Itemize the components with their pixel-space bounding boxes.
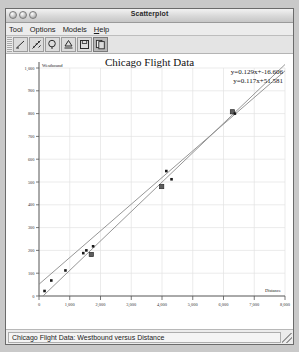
- y-axis-tick-label: 1,000: [25, 66, 36, 72]
- x-axis-tick-label: 6,000: [219, 302, 230, 308]
- y-axis-tick-label: 400: [28, 202, 35, 207]
- data-point: [43, 290, 46, 293]
- data-point-selected: [89, 252, 93, 256]
- tool-bar: [6, 36, 293, 54]
- y-axis-tick-label: 300: [28, 225, 35, 230]
- pencil-line-icon: [15, 39, 26, 50]
- scatter-points-icon: [31, 39, 42, 50]
- x-axis-tick-label: 0: [38, 302, 41, 307]
- x-axis-tick-label: 3,000: [126, 302, 137, 308]
- status-field[interactable]: Chicago Flight Data: Westbound versus Di…: [8, 332, 281, 343]
- lasso-tool-button[interactable]: [45, 37, 60, 52]
- y-axis-tick-label: 800: [28, 111, 35, 116]
- data-point: [85, 249, 88, 252]
- data-point: [92, 245, 95, 248]
- chart-area[interactable]: Chicago Flight Data 01002003004005006007…: [6, 54, 293, 330]
- data-point: [50, 279, 53, 282]
- magnifier-icon: [47, 39, 58, 50]
- menu-models[interactable]: Models: [63, 25, 87, 34]
- y-axis-tick-label: 500: [28, 180, 35, 185]
- data-point: [165, 170, 168, 173]
- print-button[interactable]: [61, 37, 76, 52]
- scatter-plot-svg[interactable]: 01002003004005006007008009001,000Westbou…: [6, 54, 293, 328]
- menu-bar: Tool Options Models Help: [6, 23, 293, 36]
- data-point-selected: [160, 184, 164, 188]
- menu-options[interactable]: Options: [30, 25, 56, 34]
- y-axis-tick-label: 900: [28, 88, 35, 93]
- resize-grip[interactable]: [282, 333, 292, 343]
- data-point: [170, 178, 173, 181]
- x-axis-tick-label: 8,000: [280, 302, 291, 308]
- floppy-disk-icon: [79, 39, 90, 50]
- data-point: [234, 112, 237, 115]
- equation-label-1: y=0.129x+-16.606: [231, 68, 284, 76]
- y-axis-tick-label: 200: [28, 248, 35, 253]
- status-bar: Chicago Flight Data: Westbound versus Di…: [6, 330, 293, 344]
- y-axis-tick-label: 600: [28, 157, 35, 162]
- scatterplot-window: Scatterplot Tool Options Models Help: [5, 8, 294, 345]
- y-axis-tick-label: 100: [28, 271, 35, 276]
- y-axis-label: Westbound: [42, 63, 63, 68]
- menu-help[interactable]: Help: [94, 25, 109, 34]
- x-axis-label: Distance: [265, 288, 281, 293]
- menu-tool[interactable]: Tool: [9, 25, 23, 34]
- toolbar-drag-handle[interactable]: [7, 37, 12, 52]
- status-text: Chicago Flight Data: Westbound versus Di…: [12, 334, 164, 341]
- x-axis-tick-label: 2,000: [96, 302, 107, 308]
- y-axis-tick-label: 0: [32, 294, 35, 299]
- copy-button[interactable]: [93, 37, 108, 52]
- copy-pages-icon: [95, 39, 106, 50]
- y-axis-tick-label: 700: [28, 134, 35, 139]
- x-axis-tick-label: 4,000: [157, 302, 168, 308]
- window-title: Scatterplot: [6, 10, 293, 17]
- equation-label-2: y=0.117x+51.581: [233, 77, 283, 85]
- data-point: [82, 252, 85, 255]
- data-point: [64, 269, 67, 272]
- save-button[interactable]: [77, 37, 92, 52]
- x-axis-tick-label: 7,000: [249, 302, 260, 308]
- x-axis-tick-label: 1,000: [65, 302, 76, 308]
- scatter-tool-button[interactable]: [29, 37, 44, 52]
- printer-icon: [63, 39, 74, 50]
- line-tool-button[interactable]: [13, 37, 28, 52]
- title-bar[interactable]: Scatterplot: [6, 9, 293, 23]
- x-axis-tick-label: 5,000: [188, 302, 199, 308]
